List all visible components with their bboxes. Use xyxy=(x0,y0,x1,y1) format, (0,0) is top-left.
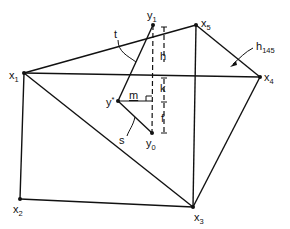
edge-x2-x3 xyxy=(20,199,193,207)
label-x2: x2 xyxy=(13,203,23,218)
leader-s xyxy=(127,117,135,136)
vertex-labels: x1 x2 x3 x4 x5 y1 y0 y* h145 xyxy=(9,9,275,226)
point-x1 xyxy=(22,71,26,75)
arrowhead-h145 xyxy=(230,61,237,67)
point-y0 xyxy=(150,131,154,135)
label-k: k xyxy=(160,82,166,94)
label-h145: h145 xyxy=(256,40,275,55)
label-ystar: y* xyxy=(106,95,115,108)
right-angle-marker xyxy=(146,96,152,101)
edge-x1-x2 xyxy=(20,73,24,199)
label-y0: y0 xyxy=(146,137,156,152)
label-t: t xyxy=(114,28,117,40)
label-h: h xyxy=(160,50,166,62)
edge-x1-x5 xyxy=(24,25,196,73)
point-x5 xyxy=(194,23,198,27)
label-x4: x4 xyxy=(264,71,274,86)
edge-x1-x3 xyxy=(24,73,193,207)
dimension-line: h k f xyxy=(160,27,167,133)
point-x2 xyxy=(18,197,22,201)
segment-labels: t s m xyxy=(114,28,138,146)
edge-x1-x4 xyxy=(24,73,260,77)
label-s: s xyxy=(119,134,125,146)
label-m: m xyxy=(129,89,138,101)
leader-t xyxy=(118,40,136,62)
label-y1: y1 xyxy=(147,9,157,24)
point-ystar xyxy=(116,99,120,103)
geometric-diagram: h k f x1 x2 x3 x4 x5 y1 y0 y* h145 t s m xyxy=(0,0,290,229)
edge-x5-x4 xyxy=(196,25,260,77)
point-x4 xyxy=(258,75,262,79)
edge-x3-x4 xyxy=(193,77,260,207)
label-x3: x3 xyxy=(194,211,204,226)
dashed-y1-y0 xyxy=(152,25,153,133)
edge-x5-x3 xyxy=(193,25,196,207)
point-x3 xyxy=(191,205,195,209)
label-x1: x1 xyxy=(9,69,19,84)
points xyxy=(18,23,262,209)
